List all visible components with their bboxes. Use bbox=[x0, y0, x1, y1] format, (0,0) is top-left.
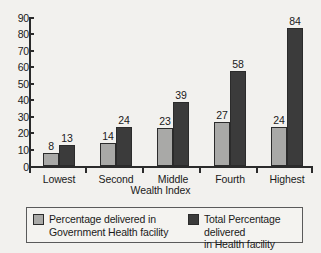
y-tick-60: 60 bbox=[0, 61, 29, 73]
y-tick-label: 30 bbox=[18, 111, 29, 123]
bar-label-highest-total: 84 bbox=[285, 16, 305, 27]
bar-label-lowest-total: 13 bbox=[57, 133, 77, 144]
bar-lowest-government[interactable] bbox=[43, 153, 59, 166]
y-tick-10: 10 bbox=[0, 144, 29, 156]
bar-second-total[interactable] bbox=[116, 127, 132, 167]
y-tick-80: 80 bbox=[0, 28, 29, 40]
legend-label-government: Percentage delivered in Government Healt… bbox=[49, 213, 168, 238]
dark-gray-swatch-icon bbox=[188, 214, 199, 225]
legend-entry-total[interactable]: Total Percentage delivered in Health fac… bbox=[188, 213, 302, 251]
y-tick-label: 50 bbox=[18, 78, 29, 90]
bar-group-middle: 23 39 bbox=[145, 18, 201, 166]
y-tick-label: 90 bbox=[18, 12, 29, 24]
bar-group-lowest: 8 13 bbox=[31, 18, 87, 166]
bar-fourth-government[interactable] bbox=[214, 122, 230, 166]
bar-highest-total[interactable] bbox=[287, 28, 303, 166]
bar-middle-government[interactable] bbox=[157, 128, 173, 166]
light-gray-swatch-icon bbox=[33, 214, 44, 225]
bar-group-highest: 24 84 bbox=[259, 18, 315, 166]
bar-groups: 8 13 14 24 23 39 27 58 bbox=[31, 18, 313, 166]
bar-label-highest-government: 24 bbox=[269, 115, 289, 126]
y-tick-label: 80 bbox=[18, 28, 29, 40]
y-tick-90: 90 bbox=[0, 12, 29, 24]
y-tick-label: 10 bbox=[18, 144, 29, 156]
y-tick-40: 40 bbox=[0, 94, 29, 106]
y-tick-label: 60 bbox=[18, 61, 29, 73]
bar-label-middle-government: 23 bbox=[155, 116, 175, 127]
bar-highest-government[interactable] bbox=[271, 127, 287, 167]
y-tick-30: 30 bbox=[0, 111, 29, 123]
chart-legend: Percentage delivered in Government Healt… bbox=[26, 207, 303, 243]
bar-second-government[interactable] bbox=[100, 143, 116, 166]
x-axis-line bbox=[29, 166, 313, 168]
y-tick-0: 0 bbox=[0, 161, 29, 173]
y-tick-label: 40 bbox=[18, 94, 29, 106]
bar-label-second-total: 24 bbox=[114, 115, 134, 126]
y-tick-label: 70 bbox=[18, 45, 29, 57]
bar-label-middle-total: 39 bbox=[171, 90, 191, 101]
bar-group-second: 14 24 bbox=[88, 18, 144, 166]
bar-fourth-total[interactable] bbox=[230, 71, 246, 166]
y-tick-20: 20 bbox=[0, 127, 29, 139]
legend-entry-government[interactable]: Percentage delivered in Government Healt… bbox=[33, 213, 168, 238]
y-tick-label: 20 bbox=[18, 127, 29, 139]
bar-label-second-government: 14 bbox=[98, 131, 118, 142]
bar-label-fourth-government: 27 bbox=[212, 110, 232, 121]
bar-label-fourth-total: 58 bbox=[228, 59, 248, 70]
bar-lowest-total[interactable] bbox=[59, 145, 75, 166]
x-axis-title: Wealth Index bbox=[0, 184, 321, 197]
plot-area: 90 80 70 60 50 40 30 20 10 0 8 13 bbox=[0, 0, 321, 180]
bar-chart: 90 80 70 60 50 40 30 20 10 0 8 13 bbox=[0, 0, 321, 253]
bar-group-fourth: 27 58 bbox=[202, 18, 258, 166]
y-tick-70: 70 bbox=[0, 45, 29, 57]
bar-middle-total[interactable] bbox=[173, 102, 189, 166]
y-tick-50: 50 bbox=[0, 78, 29, 90]
legend-label-total: Total Percentage delivered in Health fac… bbox=[204, 213, 302, 251]
